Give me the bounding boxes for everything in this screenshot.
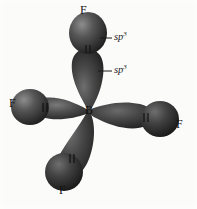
- orbital-diagram-figure: B F F F F sp3 sp3: [0, 0, 197, 209]
- atom-label-fluorine-right: F: [176, 118, 183, 130]
- annotation-sp3-hybrid: sp3: [114, 65, 127, 76]
- annotation-sp3-top-base: sp: [114, 31, 123, 42]
- annotation-sp3-hybrid-exponent: 3: [123, 63, 127, 71]
- orbital-illustration: [0, 0, 197, 209]
- atom-label-boron: B: [85, 104, 93, 116]
- annotation-sp3-hybrid-base: sp: [114, 64, 123, 75]
- fluorine-orbital-right: [141, 101, 179, 137]
- annotation-sp3-top-exponent: 3: [123, 30, 127, 38]
- boron-lobe-up: [72, 48, 104, 110]
- fluorine-orbital-top: [69, 12, 107, 54]
- atom-label-fluorine-top: F: [80, 4, 87, 16]
- annotation-sp3-top: sp3: [114, 32, 127, 43]
- atom-label-fluorine-bottom-left: F: [59, 184, 66, 196]
- atom-label-fluorine-left: F: [9, 97, 16, 109]
